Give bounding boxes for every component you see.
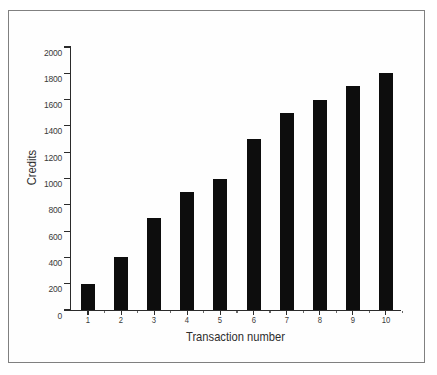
- x-tick-label: 5: [210, 315, 232, 325]
- y-axis-title: Credits: [24, 133, 39, 202]
- y-tick-label: 1600: [36, 94, 62, 112]
- plot-area: 0200400600800100012001400160018002000 12…: [0, 0, 437, 375]
- y-tick-label: 1400: [36, 120, 62, 138]
- y-tick-mark: [64, 257, 70, 258]
- x-tick-mark: [154, 311, 155, 315]
- x-tick-mark-minor: [104, 311, 105, 314]
- x-axis-title: Transaction number: [93, 329, 378, 344]
- y-tick-label-text: 1200: [44, 153, 62, 163]
- y-tick-label-text: 200: [48, 284, 62, 294]
- y-tick-label: 600: [36, 226, 62, 244]
- y-tick-mark: [64, 99, 70, 100]
- x-tick-label: 3: [143, 315, 165, 325]
- bar: [180, 192, 194, 310]
- x-tick-label: 7: [276, 315, 298, 325]
- x-tick-label: 10: [375, 315, 397, 325]
- x-tick-mark-minor: [170, 311, 171, 314]
- x-tick-label: 4: [176, 315, 198, 325]
- y-tick-label: 1200: [36, 147, 62, 165]
- x-tick-mark: [121, 311, 122, 315]
- x-tick-mark: [352, 311, 353, 315]
- x-tick-mark-minor: [137, 311, 138, 314]
- x-tick-label: 9: [342, 315, 364, 325]
- x-tick-mark-minor: [369, 311, 370, 314]
- bar: [114, 257, 128, 310]
- x-tick-mark: [253, 311, 254, 315]
- y-tick-mark: [64, 152, 70, 153]
- y-tick-label-text: 600: [48, 232, 62, 242]
- x-tick-mark: [220, 311, 221, 315]
- x-tick-mark-minor: [236, 311, 237, 314]
- x-tick-mark: [286, 311, 287, 315]
- y-tick-label: 800: [36, 199, 62, 217]
- bar: [81, 284, 95, 310]
- y-tick-label-text: 1000: [44, 179, 62, 189]
- y-tick-label: 1000: [36, 173, 62, 191]
- x-tick-mark-minor: [336, 311, 337, 314]
- y-tick-label-text: 1800: [44, 74, 62, 84]
- y-tick-mark: [64, 204, 70, 205]
- y-tick-mark: [64, 283, 70, 284]
- x-tick-mark: [319, 311, 320, 315]
- x-tick-label: 1: [77, 315, 99, 325]
- x-tick-label: 2: [110, 315, 132, 325]
- bar: [313, 100, 327, 310]
- y-tick-label: 1800: [36, 68, 62, 86]
- bar: [379, 73, 393, 310]
- y-tick-label: 2000: [36, 42, 62, 60]
- y-tick-label: 200: [36, 278, 62, 296]
- x-tick-mark-minor: [269, 311, 270, 314]
- bar: [213, 179, 227, 311]
- bar: [280, 113, 294, 310]
- y-tick-mark: [64, 178, 70, 179]
- x-tick-mark-minor: [402, 311, 403, 314]
- y-tick-label-text: 800: [48, 205, 62, 215]
- y-tick-label-text: 1400: [44, 126, 62, 136]
- y-tick-mark: [64, 231, 70, 232]
- bar: [346, 86, 360, 310]
- bar: [247, 139, 261, 310]
- y-tick-mark: [64, 125, 70, 126]
- y-tick-mark: [64, 73, 70, 74]
- x-tick-mark-minor: [203, 311, 204, 314]
- y-tick-label: 400: [36, 252, 62, 270]
- x-tick-mark: [87, 311, 88, 315]
- y-tick-label-text: 1600: [44, 100, 62, 110]
- x-tick-mark: [385, 311, 386, 315]
- y-tick-label-text: 0: [57, 311, 62, 321]
- y-tick-label-text: 400: [48, 258, 62, 268]
- y-axis-line: [70, 46, 71, 311]
- x-tick-label: 8: [309, 315, 331, 325]
- x-tick-mark: [187, 311, 188, 315]
- x-tick-mark-minor: [303, 311, 304, 314]
- y-tick-mark: [64, 309, 70, 310]
- y-tick-label: 0: [36, 305, 62, 323]
- y-tick-mark: [64, 46, 70, 47]
- x-tick-label: 6: [243, 315, 265, 325]
- chart-page: 0200400600800100012001400160018002000 12…: [0, 0, 437, 375]
- bar: [147, 218, 161, 310]
- y-tick-label-text: 2000: [44, 48, 62, 58]
